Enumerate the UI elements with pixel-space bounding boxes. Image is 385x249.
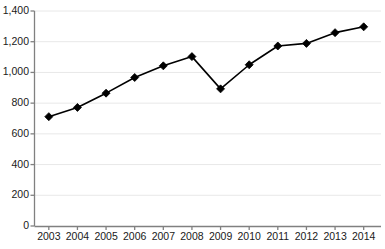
chart-plot-area [0, 0, 385, 249]
y-axis-tick-label: 600 [1, 128, 29, 138]
x-axis-tick-label: 2007 [149, 231, 178, 242]
x-axis-tick-label: 2014 [349, 231, 378, 242]
data-point-marker [159, 62, 167, 70]
x-axis-tick-label: 2008 [178, 231, 207, 242]
y-axis-tick-label: 800 [1, 97, 29, 107]
y-axis-tick-label: 200 [1, 189, 29, 199]
x-axis-tick-label: 2009 [206, 231, 235, 242]
x-axis-tick-label: 2013 [321, 231, 350, 242]
data-point-marker [131, 73, 139, 81]
data-point-marker [102, 89, 110, 97]
y-axis-tick-label: 1,200 [1, 36, 29, 46]
x-axis-tick-label: 2010 [235, 231, 264, 242]
y-axis-tick-labels: 02004006008001,0001,2001,400 [0, 0, 29, 249]
data-point-marker [274, 42, 282, 50]
data-point-marker [331, 29, 339, 37]
data-point-marker [73, 103, 81, 111]
data-point-marker [302, 39, 310, 47]
y-axis-tick-label: 1,000 [1, 66, 29, 76]
axis-lines [35, 11, 382, 227]
data-point-marker [45, 113, 53, 121]
y-axis-tick-label: 0 [1, 220, 29, 230]
y-axis-tick-label: 400 [1, 159, 29, 169]
x-axis-tick-label: 2006 [120, 231, 149, 242]
x-axis-tick-label: 2012 [292, 231, 321, 242]
x-axis-tick-label: 2004 [63, 231, 92, 242]
x-axis-tick-label: 2011 [264, 231, 293, 242]
data-point-marker [360, 23, 368, 31]
y-axis-tick-label: 1,400 [1, 5, 29, 15]
x-axis-tick-label: 2003 [35, 231, 64, 242]
line-chart: 02004006008001,0001,2001,400 20032004200… [0, 0, 385, 249]
x-axis-tick-label: 2005 [92, 231, 121, 242]
